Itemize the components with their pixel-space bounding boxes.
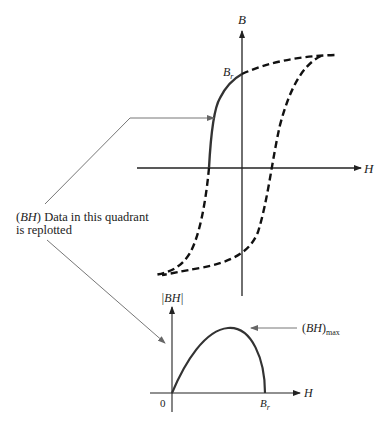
b-axis-label: B xyxy=(238,12,246,27)
h-axis-label: H xyxy=(363,161,374,176)
leader-to-quadrant xyxy=(45,118,214,204)
annotation-line-1: (BH) Data in this quadrant xyxy=(16,210,149,224)
upper-saturation-dashed xyxy=(242,55,335,74)
lower-h-axis-label: H xyxy=(303,386,314,400)
bh-max-label: (BH)max xyxy=(302,321,340,337)
demagnetization-curve xyxy=(209,74,242,168)
lower-plot: |BH| H 0 Br (BH)max xyxy=(150,291,340,412)
origin-label: 0 xyxy=(160,397,166,409)
upper-plot: B H Br xyxy=(137,12,374,296)
bh-axis-label: |BH| xyxy=(161,291,184,305)
hysteresis-diagram: B H Br (BH) Data in this quadrant is rep… xyxy=(0,0,387,424)
bh-product-curve xyxy=(172,328,265,393)
annotation-line-2: is replotted xyxy=(16,223,73,237)
leader-to-bh-plot xyxy=(47,240,165,343)
br-label: Br xyxy=(260,397,271,412)
remanence-label: Br xyxy=(223,65,234,81)
left-branch-dashed xyxy=(155,168,209,275)
